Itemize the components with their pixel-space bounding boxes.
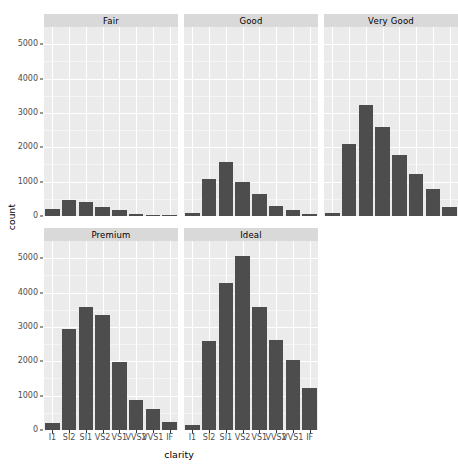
y-axis-top: 010002000300040005000 — [0, 14, 44, 216]
y-axis-tick-mark — [40, 78, 43, 79]
bar — [129, 400, 144, 430]
bar — [79, 202, 94, 216]
panel-background — [184, 27, 318, 216]
facet-panel: Fair — [44, 14, 178, 216]
y-axis-bottom: 010002000300040005000 — [0, 228, 44, 430]
bar-series — [44, 241, 178, 430]
facet-strip-label: Premium — [44, 228, 178, 241]
x-axis-tick-label: IF — [166, 434, 173, 442]
panel-background — [44, 27, 178, 216]
bar — [62, 329, 77, 430]
bar — [146, 215, 161, 217]
x-axis: I1SI2SI1VS2VS1VVS2VVS1IF — [184, 430, 318, 450]
bar — [252, 307, 267, 430]
bar — [146, 409, 161, 430]
y-axis-tick-label: 0 — [33, 212, 38, 220]
facet-panel: Good — [184, 14, 318, 216]
facet-panel: PremiumI1SI2SI1VS2VS1VVS2VVS1IF — [44, 228, 178, 430]
bar — [219, 283, 234, 430]
x-axis-tick-label: SI2 — [203, 434, 216, 442]
y-axis-tick-label: 5000 — [18, 40, 38, 48]
bar-series — [324, 27, 458, 216]
facet-panel: Very Good — [324, 14, 458, 216]
x-axis-tick-label: SI1 — [220, 434, 233, 442]
bar — [442, 207, 457, 216]
y-axis-tick-mark — [40, 430, 43, 431]
bar — [375, 127, 390, 216]
bar — [185, 213, 200, 216]
facet-strip-label: Ideal — [184, 228, 318, 241]
bar — [302, 214, 317, 216]
x-axis-tick-label: IF — [306, 434, 313, 442]
bar — [235, 256, 250, 430]
x-axis-tick-label: VS2 — [235, 434, 251, 442]
y-axis-tick-mark — [40, 44, 43, 45]
facet-strip-label: Fair — [44, 14, 178, 27]
bar — [409, 174, 424, 216]
x-axis-tick-label: VS2 — [95, 434, 111, 442]
bar — [162, 215, 177, 217]
bar — [302, 388, 317, 430]
bar — [95, 207, 110, 216]
y-axis-tick-label: 2000 — [18, 357, 38, 365]
y-axis-tick-label: 2000 — [18, 143, 38, 151]
y-axis-tick-mark — [40, 292, 43, 293]
y-axis-tick-mark — [40, 395, 43, 396]
bar — [286, 360, 301, 430]
bar — [342, 144, 357, 216]
panel-background — [324, 27, 458, 216]
panel-background — [44, 241, 178, 430]
facet-row-top: 010002000300040005000 FairGoodVery Good — [0, 14, 452, 216]
bar — [129, 214, 144, 216]
bar — [112, 362, 127, 430]
y-axis-tick-label: 4000 — [18, 289, 38, 297]
y-axis-tick-mark — [40, 361, 43, 362]
y-axis-tick-label: 5000 — [18, 254, 38, 262]
x-axis-tick-label: VVS1 — [282, 434, 303, 442]
facet-panel: IdealI1SI2SI1VS2VS1VVS2VVS1IF — [184, 228, 318, 430]
y-axis-tick-label: 1000 — [18, 392, 38, 400]
bar — [392, 155, 407, 216]
bar — [162, 422, 177, 430]
y-axis-tick-mark — [40, 326, 43, 327]
bar — [95, 315, 110, 430]
panel-background — [184, 241, 318, 430]
bar — [235, 182, 250, 216]
bar-series — [44, 27, 178, 216]
facet-strip-label: Good — [184, 14, 318, 27]
bar — [202, 179, 217, 216]
bar — [45, 209, 60, 216]
x-axis-title: clarity — [44, 449, 314, 460]
bar — [269, 340, 284, 430]
x-axis-tick-label: I1 — [49, 434, 56, 442]
y-axis-tick-mark — [40, 181, 43, 182]
y-axis-tick-label: 4000 — [18, 75, 38, 83]
bar — [269, 206, 284, 216]
bar — [426, 189, 441, 216]
x-axis-tick-label: SI1 — [80, 434, 93, 442]
facet-strip-label: Very Good — [324, 14, 458, 27]
y-axis-tick-mark — [40, 258, 43, 259]
bar-series — [184, 27, 318, 216]
x-axis-tick-label: I1 — [189, 434, 196, 442]
bar — [62, 200, 77, 216]
y-axis-tick-label: 3000 — [18, 323, 38, 331]
bar — [359, 105, 374, 216]
bar — [202, 341, 217, 430]
bar-series — [184, 241, 318, 430]
bar — [219, 162, 234, 216]
y-axis-tick-mark — [40, 216, 43, 217]
x-axis-tick-label: SI2 — [63, 434, 76, 442]
bar — [45, 423, 60, 430]
y-axis-tick-label: 1000 — [18, 178, 38, 186]
bar — [112, 210, 127, 216]
y-axis-tick-mark — [40, 112, 43, 113]
facet-row-bottom: 010002000300040005000 PremiumI1SI2SI1VS2… — [0, 228, 452, 430]
y-axis-tick-label: 0 — [33, 426, 38, 434]
y-axis-tick-label: 3000 — [18, 109, 38, 117]
bar — [79, 307, 94, 430]
bar — [325, 213, 340, 216]
bar — [252, 194, 267, 216]
x-axis-tick-label: VVS1 — [142, 434, 163, 442]
